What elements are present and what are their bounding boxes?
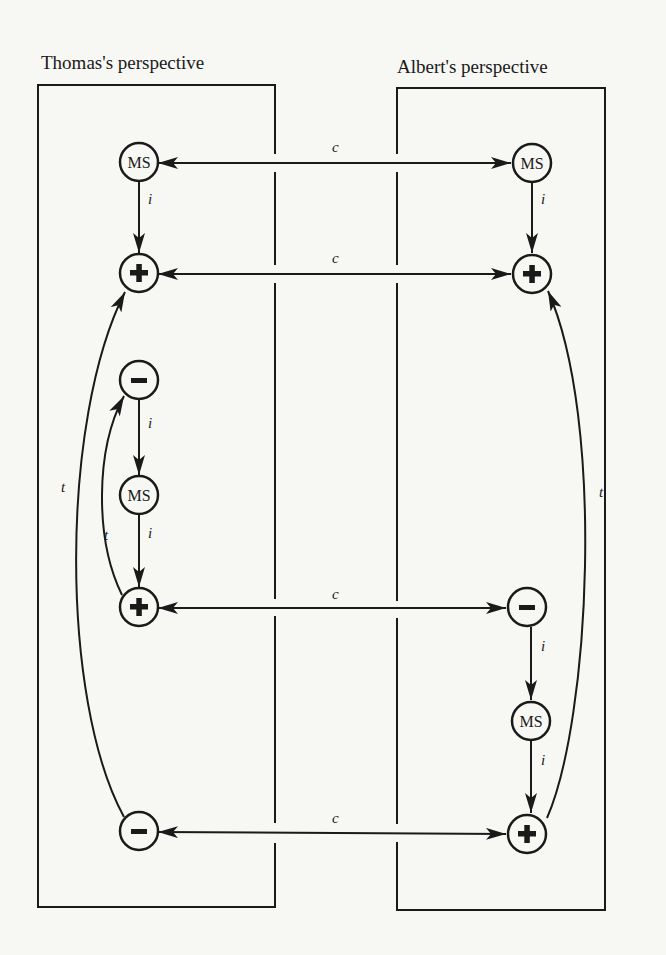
i-label: i: [541, 191, 545, 207]
i-label: i: [148, 415, 152, 431]
c-label: c: [332, 810, 339, 826]
i-label: i: [541, 638, 545, 654]
i-label: i: [541, 752, 545, 768]
panel-box-albert: [397, 88, 605, 910]
t-label: t: [599, 484, 604, 500]
minus-icon: [519, 605, 535, 610]
t-label: t: [104, 527, 109, 543]
t-arrow-right: [547, 291, 585, 818]
c-arrow-minus-plus: [158, 832, 506, 834]
t-label: t: [61, 479, 66, 495]
minus-icon: [131, 829, 147, 834]
ms-label: MS: [519, 713, 542, 730]
c-label: c: [332, 139, 339, 155]
ms-label: MS: [127, 487, 150, 504]
c-label: c: [332, 586, 339, 602]
ms-label: MS: [520, 155, 543, 172]
c-label: c: [332, 250, 339, 266]
i-label: i: [148, 525, 152, 541]
ms-label: MS: [127, 154, 150, 171]
i-label: i: [148, 191, 152, 207]
minus-icon: [131, 378, 147, 383]
t-arrow-outer-left: [76, 292, 125, 817]
